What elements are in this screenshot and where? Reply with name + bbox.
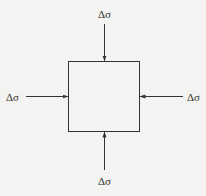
label-right: Δσ xyxy=(187,91,200,103)
label-top: Δσ xyxy=(98,8,111,20)
label-left-text: Δσ xyxy=(6,91,19,103)
diagram-canvas xyxy=(0,0,206,196)
stress-element-box xyxy=(69,62,140,132)
label-right-text: Δσ xyxy=(187,91,200,103)
label-bottom-text: Δσ xyxy=(98,175,111,187)
label-top-text: Δσ xyxy=(98,8,111,20)
label-bottom: Δσ xyxy=(98,175,111,187)
label-left: Δσ xyxy=(6,91,19,103)
